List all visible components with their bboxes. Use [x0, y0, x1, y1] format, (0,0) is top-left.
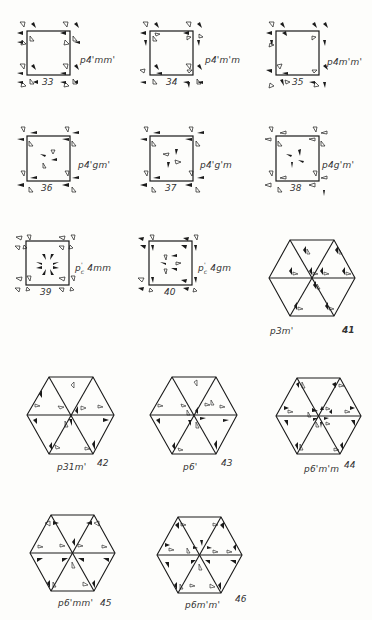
hexagonal-lattice-diagram: [28, 510, 128, 605]
figure-number: 39: [40, 287, 51, 297]
figure-number: 34: [166, 77, 177, 87]
group-label: p'c 4gm: [198, 261, 231, 275]
figure-42: p31m' 42: [25, 370, 125, 485]
group-label: p6m'm': [185, 600, 220, 610]
hexagonal-lattice-diagram: [25, 370, 125, 470]
figure-45: p6'mm' 45: [28, 510, 128, 620]
hexagonal-lattice-diagram: [148, 370, 248, 470]
figure-46: p6m'm' 46: [155, 512, 255, 620]
group-label-sup: ': [204, 261, 206, 268]
figure-39: 39 p'c 4mm: [0, 225, 120, 310]
hexagonal-lattice-diagram: [262, 235, 372, 335]
group-label: p4m'm': [327, 57, 362, 67]
group-label-rest: 4gm: [207, 263, 231, 273]
figure-number: 44: [344, 460, 355, 470]
figure-37: 37 p4'g'm: [123, 110, 248, 220]
group-label: p31m': [57, 462, 86, 472]
figure-number: 41: [342, 325, 355, 335]
figure-number: 45: [100, 598, 111, 608]
figure-38: 38 p4g'm': [249, 110, 372, 220]
group-label: p6'm'm: [304, 464, 339, 474]
figure-41: p3m' 41: [262, 235, 372, 345]
figure-36: 36 p4'gm': [0, 110, 120, 220]
figure-number: 43: [221, 458, 232, 468]
square-lattice-diagram: [123, 0, 248, 100]
figure-40: 40 p'c 4gm: [123, 225, 248, 310]
group-label: p4'm'm: [205, 55, 240, 65]
figure-number: 33: [42, 77, 53, 87]
hexagonal-lattice-diagram: [155, 512, 255, 607]
group-label: p4'mm': [80, 55, 115, 65]
figure-34: 34 p4'm'm: [123, 0, 248, 100]
group-label-rest: 4mm: [84, 263, 111, 273]
figure-number: 38: [290, 183, 301, 193]
group-label: p4'gm': [78, 160, 110, 170]
group-label: p4g'm': [322, 160, 354, 170]
square-lattice-diagram: [0, 0, 120, 100]
group-label: p6'mm': [58, 598, 93, 608]
figure-number: 46: [235, 594, 246, 604]
group-label: p6': [183, 462, 198, 472]
figure-33: 33 p4'mm': [0, 0, 120, 100]
hexagonal-lattice-diagram: [274, 372, 372, 472]
square-lattice-diagram: [249, 0, 372, 100]
figure-43: p6' 43: [148, 370, 248, 485]
group-label: p3m': [270, 326, 293, 336]
figure-35: 35 p4m'm': [249, 0, 372, 100]
group-label: p4'g'm: [200, 160, 232, 170]
figure-number: 36: [41, 183, 52, 193]
figure-number: 35: [292, 77, 303, 87]
group-label: p'c 4mm: [75, 261, 111, 275]
figure-number: 40: [164, 287, 175, 297]
group-label-sup: ': [81, 261, 83, 268]
figure-44: p6'm'm 44: [274, 372, 372, 487]
figure-number: 42: [97, 458, 108, 468]
figure-number: 37: [165, 183, 176, 193]
